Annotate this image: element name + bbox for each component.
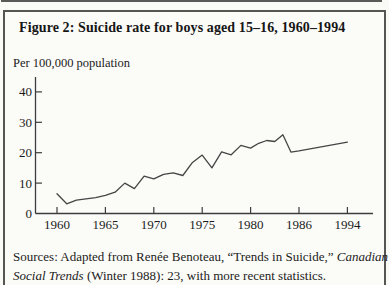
source-note-line-2: Social Trends (Winter 1988): 23, with mo… <box>13 267 385 285</box>
axes <box>36 77 374 214</box>
x-tick-label: 1986 <box>286 217 313 232</box>
x-tick-label: 1980 <box>238 217 264 232</box>
y-tick-label: 20 <box>19 145 32 160</box>
y-tick-label: 0 <box>26 206 33 221</box>
source-note: Sources: Adapted from Renée Benoteau, “T… <box>13 248 385 285</box>
x-tick-label: 1975 <box>189 217 215 232</box>
source-text-regular: Sources: Adapted from Renée Benoteau, “T… <box>13 249 337 264</box>
source-journal-name-part1: Canadian <box>337 249 388 264</box>
x-axis-ticks <box>57 207 347 214</box>
y-axis-labels: 010203040 <box>19 84 32 221</box>
source-text-regular-2: (Winter 1988): 23, with more recent stat… <box>84 268 326 283</box>
data-line-suicide-rate <box>57 135 347 204</box>
x-tick-label: 1970 <box>141 217 167 232</box>
x-tick-label: 1960 <box>44 217 70 232</box>
y-axis-ticks <box>36 92 43 183</box>
figure-frame: Figure 2: Suicide rate for boys aged 15–… <box>3 10 386 285</box>
x-axis-labels: 1960196519701975198019861994 <box>44 217 361 232</box>
y-tick-label: 30 <box>19 115 32 130</box>
source-journal-name-part2: Social Trends <box>13 268 84 283</box>
x-tick-label: 1994 <box>334 217 361 232</box>
y-tick-label: 40 <box>19 84 32 99</box>
figure-2-screenshot: Figure 2: Suicide rate for boys aged 15–… <box>0 0 389 285</box>
source-note-line-1: Sources: Adapted from Renée Benoteau, “T… <box>13 248 385 267</box>
line-chart: 0102030401960196519701975198019861994 <box>2 2 389 242</box>
y-tick-label: 10 <box>19 176 32 191</box>
x-tick-label: 1965 <box>92 217 118 232</box>
